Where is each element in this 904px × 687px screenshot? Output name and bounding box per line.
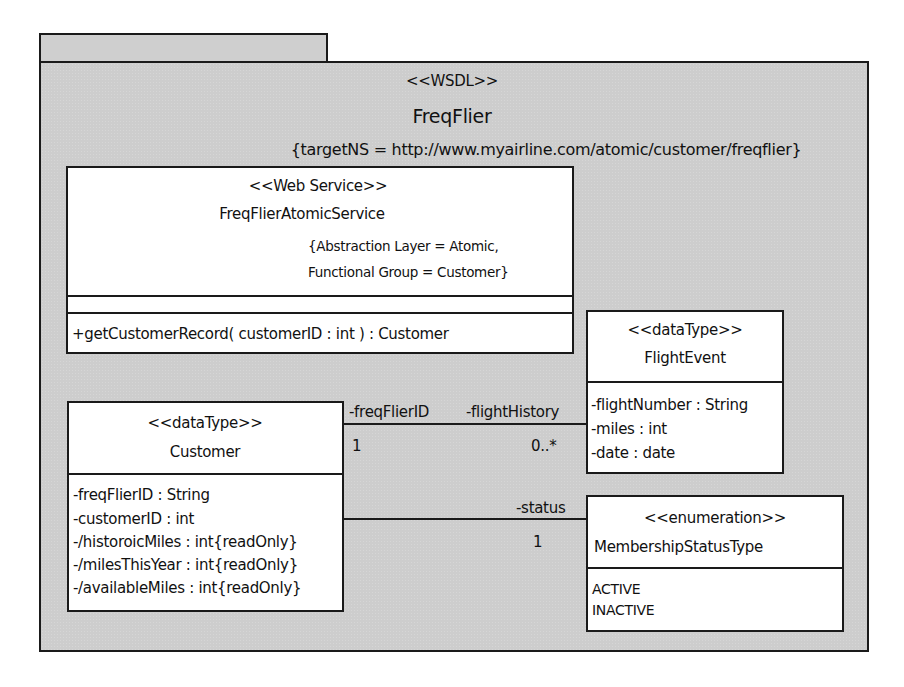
flight-event-attr: -miles : int: [591, 420, 667, 438]
customer-stereotype: <<dataType>>: [148, 414, 263, 432]
enum-literal: ACTIVE: [592, 580, 640, 598]
web-service-name: FreqFlierAtomicService: [219, 205, 384, 223]
web-service-class[interactable]: <<Web Service>> FreqFlierAtomicService {…: [66, 166, 574, 354]
web-service-stereotype: <<Web Service>>: [249, 177, 388, 195]
flight-event-stereotype: <<dataType>>: [628, 321, 743, 339]
web-service-divider-1: [68, 295, 572, 297]
package-tab: [39, 33, 328, 63]
multiplicity-source: 1: [352, 437, 361, 455]
association-flight-history[interactable]: [344, 423, 586, 425]
flight-event-attr: -date : date: [591, 444, 675, 462]
customer-attr: -/availableMiles : int{readOnly}: [73, 579, 301, 597]
customer-attr: -customerID : int: [73, 510, 194, 528]
flight-event-attr: -flightNumber : String: [591, 396, 748, 414]
web-service-tag-1: {Abstraction Layer = Atomic,: [308, 237, 498, 255]
enum-divider: [588, 567, 842, 569]
customer-name: Customer: [170, 443, 240, 461]
customer-attr: -/milesThisYear : int{readOnly}: [73, 556, 298, 574]
flight-event-name: FlightEvent: [644, 349, 726, 367]
package-tagged-value: {targetNS = http://www.myairline.com/ato…: [291, 140, 802, 160]
web-service-operation: +getCustomerRecord( customerID : int ) :…: [72, 325, 449, 343]
customer-attr: -freqFlierID : String: [73, 486, 210, 504]
role-freq-flier-id: -freqFlierID: [349, 403, 429, 421]
customer-attr: -/historoicMiles : int{readOnly}: [73, 533, 298, 551]
multiplicity-status: 1: [533, 533, 542, 551]
web-service-divider-2: [68, 312, 572, 314]
association-status[interactable]: [344, 518, 586, 520]
package-name: FreqFlier: [413, 105, 492, 127]
flight-event-class[interactable]: <<dataType>> FlightEvent -flightNumber :…: [586, 310, 784, 474]
customer-class[interactable]: <<dataType>> Customer -freqFlierID : Str…: [67, 401, 344, 612]
package-stereotype: <<WSDL>>: [406, 72, 498, 90]
flight-event-divider: [588, 381, 782, 383]
membership-status-enum[interactable]: <<enumeration>> MembershipStatusType ACT…: [586, 495, 844, 632]
enum-name: MembershipStatusType: [594, 538, 763, 556]
customer-divider: [69, 473, 342, 475]
enum-stereotype: <<enumeration>>: [644, 509, 786, 527]
multiplicity-target: 0..*: [531, 437, 556, 455]
enum-literal: INACTIVE: [592, 601, 654, 619]
role-status: -status: [516, 499, 565, 517]
role-flight-history: -flightHistory: [466, 403, 559, 421]
web-service-tag-2: Functional Group = Customer}: [308, 263, 509, 281]
